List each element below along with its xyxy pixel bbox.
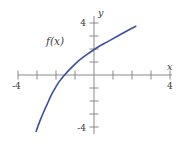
y-tick-label-pos-four: 4 [80, 18, 86, 28]
y-axis-label: y [97, 7, 104, 18]
y-tick-label-neg-four: -4 [77, 123, 86, 133]
function-curve-label: f(x) [45, 35, 64, 47]
plot-canvas: x y -4 4 4 -4 f(x) [0, 0, 188, 141]
x-axis-label: x [167, 61, 173, 72]
x-tick-label-neg-four: -4 [12, 81, 21, 91]
function-graph-figure: x y -4 4 4 -4 f(x) [0, 0, 188, 141]
x-tick-label-pos-four: 4 [167, 81, 173, 91]
